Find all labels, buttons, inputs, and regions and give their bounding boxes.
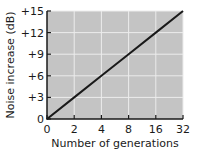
- x-tick-label: 2: [71, 123, 78, 136]
- x-axis-title: Number of generations: [51, 137, 179, 150]
- y-tick-label: +15: [21, 5, 44, 18]
- noise-chart: 02481632 0+3+6+9+12+15 Number of generat…: [0, 0, 198, 157]
- y-tick-label: +3: [28, 91, 44, 104]
- y-tick-label: +9: [28, 48, 44, 61]
- y-axis-title: Noise increase (dB): [4, 12, 17, 119]
- x-tick-label: 8: [125, 123, 132, 136]
- y-tick-label: +6: [28, 70, 44, 83]
- x-tick-label: 16: [149, 123, 163, 136]
- x-tick-label: 0: [44, 123, 51, 136]
- y-tick-label: 0: [37, 113, 44, 126]
- y-tick-label: +12: [21, 27, 44, 40]
- x-tick-label: 32: [176, 123, 190, 136]
- x-tick-label: 4: [98, 123, 105, 136]
